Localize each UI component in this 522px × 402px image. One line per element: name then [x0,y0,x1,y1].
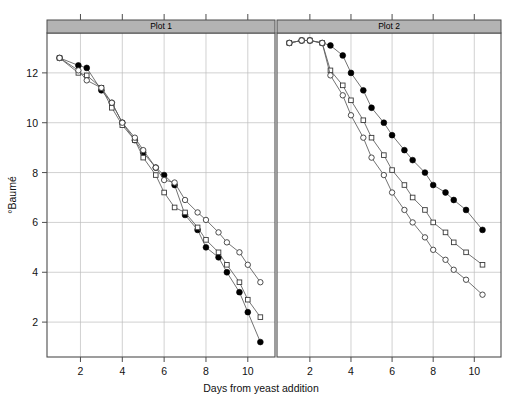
marker-open-square [162,190,167,195]
marker-filled-circle [203,244,209,250]
marker-filled-circle [389,132,395,138]
x-tick-label: 2 [78,365,84,377]
x-tick-label: 2 [307,365,313,377]
marker-filled-circle [237,289,243,295]
y-axis-title: °Baumé [6,176,18,214]
marker-open-circle [237,250,242,255]
marker-open-square [225,262,230,267]
marker-open-circle [402,207,407,212]
panel-strip-label-1: Plot 1 [150,21,172,31]
marker-open-circle [258,280,263,285]
marker-open-circle [161,177,166,182]
marker-open-circle [216,230,221,235]
marker-open-circle [443,257,448,262]
marker-open-square [204,238,209,243]
y-tick-label: 10 [26,117,38,129]
marker-open-square [423,208,428,213]
marker-open-circle [224,240,229,245]
marker-open-circle [287,40,292,45]
marker-open-circle [203,217,208,222]
marker-open-square [216,250,221,255]
marker-filled-circle [84,65,90,71]
marker-open-circle [410,220,415,225]
marker-open-circle [463,277,468,282]
marker-open-circle [99,85,104,90]
marker-open-square [84,73,89,78]
y-tick-label: 2 [32,316,38,328]
marker-open-circle [480,292,485,297]
marker-open-square [246,297,251,302]
marker-open-square [237,280,242,285]
marker-open-square [340,83,345,88]
marker-open-square [402,183,407,188]
marker-filled-circle [381,120,387,126]
marker-open-circle [299,38,304,43]
marker-open-circle [340,93,345,98]
marker-filled-circle [480,227,486,233]
marker-open-circle [422,235,427,240]
marker-open-square [349,98,354,103]
marker-open-circle [381,172,386,177]
marker-open-circle [320,40,325,45]
marker-open-square [451,240,456,245]
marker-open-square [464,250,469,255]
marker-open-square [410,195,415,200]
marker-open-circle [132,135,137,140]
marker-open-circle [57,55,62,60]
marker-open-square [172,205,177,210]
y-tick-label: 4 [32,266,38,278]
marker-filled-circle [360,87,366,93]
marker-open-circle [84,78,89,83]
marker-filled-circle [328,43,334,49]
marker-open-circle [361,135,366,140]
marker-open-square [443,230,448,235]
x-tick-label: 4 [119,365,125,377]
marker-open-square [480,262,485,267]
marker-open-circle [430,247,435,252]
marker-open-circle [172,180,177,185]
marker-open-square [431,220,436,225]
marker-filled-circle [402,147,408,153]
marker-filled-circle [410,157,416,163]
marker-open-circle [389,190,394,195]
marker-open-square [183,210,188,215]
marker-open-circle [307,38,312,43]
marker-filled-circle [422,170,428,176]
marker-filled-circle [463,207,469,213]
x-tick-label: 6 [161,365,167,377]
marker-filled-circle [443,190,449,196]
marker-filled-circle [257,339,263,345]
x-axis-title: Days from yeast addition [203,382,319,394]
marker-open-square [153,173,158,178]
marker-open-circle [182,197,187,202]
marker-filled-circle [224,269,230,275]
marker-filled-circle [430,182,436,188]
marker-filled-circle [340,53,346,59]
marker-open-circle [245,262,250,267]
panel-strips: Plot 1Plot 2 [47,20,501,33]
marker-open-square [195,225,200,230]
x-tick-label: 6 [389,365,395,377]
marker-filled-circle [451,197,457,203]
marker-open-square [141,155,146,160]
y-tick-label: 8 [32,167,38,179]
marker-open-square [361,118,366,123]
marker-open-circle [369,155,374,160]
marker-open-circle [153,165,158,170]
chart-canvas: 24681024681024681012 Plot 1Plot 2 Days f… [0,0,522,402]
marker-open-square [369,135,374,140]
marker-open-circle [76,68,81,73]
x-tick-label: 10 [468,365,480,377]
marker-filled-circle [348,70,354,76]
marker-open-square [258,315,263,320]
marker-open-square [390,168,395,173]
marker-open-circle [195,210,200,215]
chart-figure: 24681024681024681012 Plot 1Plot 2 Days f… [0,0,522,402]
marker-open-circle [141,147,146,152]
panel-strip-label-2: Plot 2 [378,21,400,31]
marker-open-circle [120,120,125,125]
marker-open-circle [451,267,456,272]
x-tick-label: 8 [430,365,436,377]
x-tick-label: 8 [203,365,209,377]
y-tick-label: 12 [26,67,38,79]
